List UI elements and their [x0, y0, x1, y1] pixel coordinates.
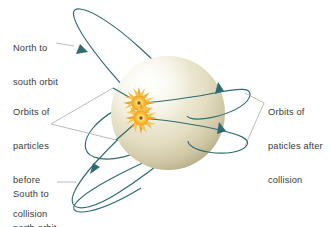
label-orbits-before-line2: particles — [13, 141, 49, 152]
leader-after-upper — [245, 93, 264, 103]
label-orbits-after-line2: paticles after — [268, 141, 323, 152]
planet-sphere — [111, 56, 225, 170]
label-orbits-after-line3: collision — [268, 175, 323, 186]
label-south-to-north-line1: South to — [13, 189, 57, 200]
burst-center-lower — [139, 116, 142, 119]
orbit-collision-diagram: North to south orbit Orbits of particles… — [0, 0, 333, 227]
arrowhead-north-to-south — [76, 44, 88, 54]
leader-before-lower — [51, 124, 116, 140]
arrowhead-south-to-north — [90, 163, 100, 174]
label-south-to-north-orbit: South to north orbit — [13, 166, 57, 227]
label-orbits-after-collision: Orbits of paticles after collision — [268, 84, 323, 209]
sphere-highlight — [111, 56, 225, 170]
burst-center-upper — [137, 101, 140, 104]
label-north-to-south-line1: North to — [13, 43, 58, 54]
label-orbits-before-line1: Orbits of — [13, 107, 49, 118]
label-orbits-after-line1: Orbits of — [268, 107, 323, 118]
leader-north-to-south — [56, 43, 74, 46]
label-south-to-north-line2: north orbit — [13, 223, 57, 227]
leader-after-lower — [245, 103, 264, 146]
leader-before-upper — [51, 88, 113, 124]
